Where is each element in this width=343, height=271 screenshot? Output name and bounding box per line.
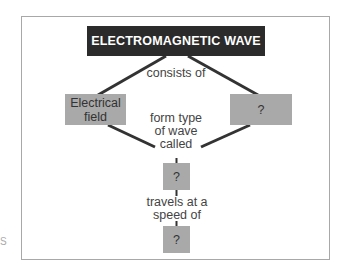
link-label-form: form type of wave called xyxy=(146,112,206,151)
title-node: ELECTROMAGNETIC WAVE xyxy=(87,26,265,56)
link-label-travels: travels at a speed of xyxy=(136,196,218,222)
cropped-text-fragment: S xyxy=(0,236,7,247)
node-unknown-middle: ? xyxy=(163,163,190,190)
node-electrical-field: Electrical field xyxy=(65,94,126,125)
node-unknown-bottom: ? xyxy=(163,226,190,253)
link-label-consists-of: consists of xyxy=(146,67,206,80)
node-unknown-right: ? xyxy=(230,94,292,125)
